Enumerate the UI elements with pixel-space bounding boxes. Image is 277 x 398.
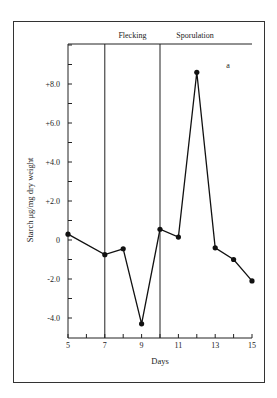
- data-point: [194, 70, 199, 75]
- data-point: [157, 227, 162, 232]
- x-tick-label: 13: [211, 341, 219, 350]
- y-tick-label: -2.0: [47, 275, 60, 284]
- data-point: [102, 252, 107, 257]
- starch-line-chart: -4.0-2.00+2.0+4.0+6.0+8.0579111315 Fleck…: [0, 0, 277, 398]
- data-point: [249, 278, 254, 283]
- x-axis-title: Days: [151, 356, 168, 366]
- panel-label: a: [226, 61, 230, 70]
- phase-markers: FleckingSporulation: [68, 31, 252, 338]
- data-point: [231, 257, 236, 262]
- y-tick-label: +6.0: [45, 119, 60, 128]
- x-tick-label: 15: [248, 341, 256, 350]
- y-tick-label: +8.0: [45, 80, 60, 89]
- data-point: [213, 245, 218, 250]
- y-tick-label: +2.0: [45, 197, 60, 206]
- x-tick-label: 7: [103, 341, 107, 350]
- x-tick-label: 11: [175, 341, 183, 350]
- x-tick-label: 5: [66, 341, 70, 350]
- data-point: [139, 321, 144, 326]
- data-point: [65, 232, 70, 237]
- axes: -4.0-2.00+2.0+4.0+6.0+8.0579111315: [45, 44, 256, 350]
- y-tick-label: +4.0: [45, 158, 60, 167]
- y-tick-label: 0: [56, 236, 60, 245]
- x-tick-label: 9: [140, 341, 144, 350]
- data-point: [176, 234, 181, 239]
- y-axis-title: Starch μg/mg dry weight: [25, 157, 35, 242]
- phase-label: Flecking: [118, 31, 146, 40]
- y-tick-label: -4.0: [47, 314, 60, 323]
- data-point: [121, 246, 126, 251]
- phase-label: Sporulation: [176, 31, 213, 40]
